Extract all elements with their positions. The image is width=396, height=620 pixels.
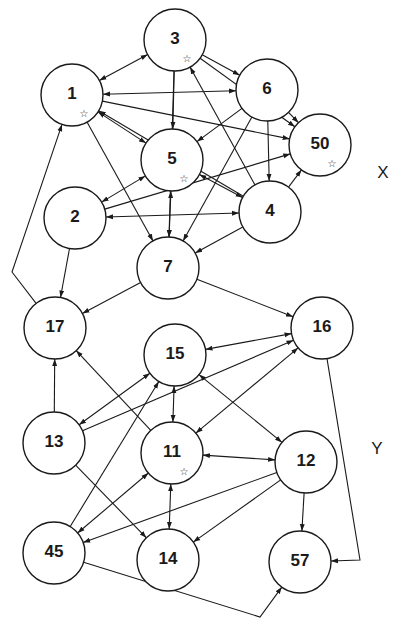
edge-6-to-50 <box>289 112 299 122</box>
edge-4-to-7 <box>195 227 243 253</box>
graph-canvas: 3☆1☆650☆5☆2471716151311☆12451457 XY <box>0 0 396 620</box>
node-label: 1 <box>67 84 76 103</box>
node-45[interactable]: 45 <box>23 522 85 584</box>
node-2[interactable]: 2 <box>44 187 106 249</box>
node-label: 45 <box>45 542 64 561</box>
node-label: 3 <box>170 29 179 48</box>
node-7[interactable]: 7 <box>137 237 199 299</box>
node-14[interactable]: 14 <box>137 529 199 591</box>
edge-6-to-5 <box>197 108 242 141</box>
star-icon: ☆ <box>180 466 189 477</box>
node-5[interactable]: 5☆ <box>141 129 203 191</box>
node-13[interactable]: 13 <box>23 412 85 474</box>
node-label: 6 <box>262 79 271 98</box>
node-label: 11 <box>163 442 181 461</box>
edge-1-to-3 <box>99 55 147 81</box>
edge-5-to-4 <box>199 175 242 198</box>
edge-1-to-5 <box>98 112 146 143</box>
node-16[interactable]: 16 <box>291 297 353 359</box>
star-icon: ☆ <box>180 173 189 184</box>
node-15[interactable]: 15 <box>144 324 206 386</box>
star-icon: ☆ <box>80 108 89 119</box>
edge-11-to-14 <box>169 484 171 529</box>
edge-7-to-16 <box>197 279 293 316</box>
edge-12-to-14 <box>193 480 280 542</box>
node-17[interactable]: 17 <box>24 297 86 359</box>
node-label: 5 <box>167 149 176 168</box>
node-label: 13 <box>45 432 64 451</box>
node-1[interactable]: 1☆ <box>41 64 103 126</box>
node-label: 4 <box>265 201 275 220</box>
edge-45-to-11 <box>78 473 149 533</box>
group-label-y: Y <box>371 439 382 458</box>
node-57[interactable]: 57 <box>269 531 331 593</box>
edge-7-to-17 <box>82 283 140 314</box>
node-label: 7 <box>163 257 172 276</box>
node-label: 17 <box>46 317 65 336</box>
node-label: 12 <box>297 451 316 470</box>
edge-13-to-14 <box>76 465 147 538</box>
edge-12-to-57 <box>302 493 304 531</box>
node-label: 15 <box>166 344 185 363</box>
star-icon: ☆ <box>328 158 337 169</box>
edge-4-to-50 <box>289 170 302 187</box>
node-11[interactable]: 11☆ <box>141 422 203 484</box>
node-label: 57 <box>291 551 310 570</box>
network-diagram: 3☆1☆650☆5☆2471716151311☆12451457 XY <box>0 0 396 620</box>
group-label-x: X <box>377 163 388 182</box>
node-6[interactable]: 6 <box>236 59 298 121</box>
node-label: 14 <box>159 549 178 568</box>
node-12[interactable]: 12 <box>275 431 337 493</box>
node-label: 16 <box>313 317 332 336</box>
edge-11-to-12 <box>203 455 275 460</box>
edge-6-to-4 <box>268 121 269 181</box>
edge-1-to-6 <box>103 91 236 94</box>
node-4[interactable]: 4 <box>239 181 301 243</box>
node-3[interactable]: 3☆ <box>144 9 206 71</box>
node-50[interactable]: 50☆ <box>289 114 351 176</box>
edge-15-to-12 <box>199 375 282 443</box>
edge-4-to-2 <box>106 213 239 217</box>
edge-5-to-2 <box>102 176 146 202</box>
edge-2-to-17 <box>61 249 70 298</box>
node-label: 2 <box>70 207 79 226</box>
edge-3-to-6 <box>202 55 240 75</box>
group-labels-layer: XY <box>371 163 388 458</box>
star-icon: ☆ <box>183 53 192 64</box>
node-label: 50 <box>311 134 330 153</box>
